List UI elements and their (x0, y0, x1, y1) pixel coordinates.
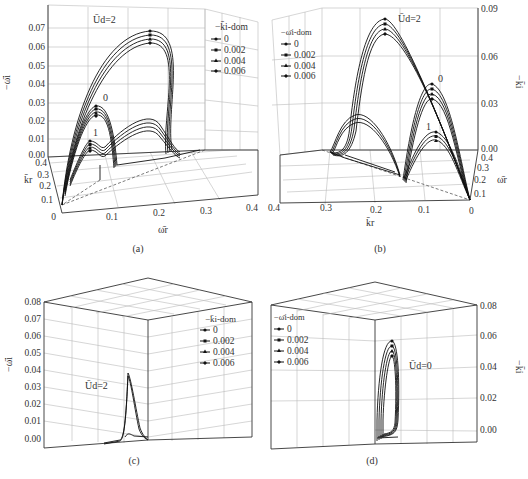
legend-item: 0.002 (224, 45, 246, 55)
wr-tick: 0.2 (153, 208, 165, 218)
ud-label: Ūd=2 (93, 14, 116, 25)
y-tick: 0.00 (480, 425, 497, 435)
legend-item: 0 (294, 39, 299, 49)
kr-tick: 0 (51, 212, 56, 222)
legend-item: 0 (213, 325, 218, 335)
legend-item: 0.004 (287, 346, 309, 356)
legend-item: 0.006 (224, 66, 246, 76)
y-tick: 0.02 (28, 116, 45, 126)
legend-title: −ω̄i-dom (281, 27, 312, 37)
y-tick: 0.03 (481, 99, 498, 109)
kr-axis-label: k̄r (24, 174, 33, 185)
legend-title: −k̄i-dom (215, 21, 248, 32)
panel-c-caption: (c) (128, 455, 139, 467)
kr-tick: 0.4 (35, 158, 47, 168)
y-tick: 0.02 (480, 393, 497, 403)
y-tick: 0.08 (24, 297, 41, 307)
legend-item: 0.002 (294, 50, 316, 60)
y-tick: 0.03 (24, 382, 41, 392)
legend-item: 0.006 (287, 357, 309, 367)
y-tick: 0.09 (481, 4, 498, 14)
y-axis-label: −ω̄i (3, 357, 14, 372)
panel-a: 0 1 Ūd=2 0.07 0.06 0.05 0.04 0.03 0.02 … (1, 5, 258, 235)
legend-item: 0.002 (213, 336, 235, 346)
wr-tick: 0.4 (246, 203, 258, 213)
mode-label-1: 1 (426, 121, 431, 132)
y-tick: 0.05 (24, 348, 41, 358)
y-axis-label: −k̄i (514, 360, 525, 374)
wr-tick: 0.3 (477, 163, 489, 173)
ud-label: Ūd=2 (85, 380, 108, 391)
kr-tick: 0.2 (370, 205, 382, 215)
y-tick: 0.06 (480, 331, 497, 341)
wr-tick: 0.1 (474, 189, 486, 199)
panel-c: Ūd=2 0.08 0.07 0.06 0.05 0.04 0.03 0.02… (3, 278, 252, 448)
mode-label-0: 0 (438, 73, 443, 84)
legend: −k̄i-dom 0 0.002 0.004 0.006 (211, 21, 248, 76)
legend: −k̄i-dom 0 0.002 0.004 0.006 (200, 314, 236, 368)
wr-tick: 0.4 (481, 153, 493, 163)
y-tick: 0.04 (28, 79, 45, 89)
kr-tick: 0.3 (320, 203, 332, 213)
legend-item: 0.006 (213, 358, 235, 368)
kr-tick: 0.4 (268, 203, 280, 213)
kr-axis-label: k̄r (366, 217, 375, 228)
mode-label-1: 1 (93, 127, 98, 138)
y-tick: 0.03 (28, 98, 45, 108)
ud-label: Ūd=2 (398, 13, 421, 24)
wr-tick: 0.2 (474, 175, 486, 185)
y-tick: 0.01 (24, 416, 41, 426)
y-tick: 0.00 (24, 434, 41, 444)
legend-item: 0.004 (224, 56, 246, 66)
legend-title: −k̄i-dom (205, 314, 236, 324)
legend-item: 0 (224, 34, 229, 44)
kr-tick: 0.1 (41, 195, 53, 205)
y-tick: 0.01 (28, 134, 45, 144)
legend-title: −ω̄i-dom (274, 312, 305, 322)
wr-tick: 0.3 (200, 206, 212, 216)
legend-item: 0.006 (294, 71, 316, 81)
legend-item: 0.004 (294, 61, 316, 71)
kr-tick: 0.2 (39, 181, 51, 191)
figure-canvas: 0 1 Ūd=2 0.07 0.06 0.05 0.04 0.03 0.02 … (0, 0, 528, 479)
legend-item: 0.002 (287, 335, 309, 345)
y-tick: 0.07 (24, 314, 41, 324)
panel-d-caption: (d) (366, 455, 378, 467)
kr-tick: 0.3 (37, 170, 49, 180)
legend: −ω̄i-dom 0 0.002 0.004 0.006 (281, 27, 316, 81)
panel-d: Ūd=0 0.08 0.06 0.04 0.02 0.00 −k̄i −ω̄i… (271, 282, 525, 449)
y-tick: 0.08 (480, 301, 497, 311)
y-axis-label: −ω̄i (1, 75, 12, 90)
kr-tick: 0.1 (418, 205, 430, 215)
y-tick: 0.06 (28, 42, 45, 52)
legend-item: 0 (287, 324, 292, 334)
panel-a-caption: (a) (132, 243, 143, 255)
y-tick: 0.04 (480, 362, 497, 372)
ud-label: Ūd=0 (409, 360, 432, 371)
y-tick: 0.04 (24, 365, 41, 375)
y-tick: 0.06 (481, 52, 498, 62)
y-tick: 0.06 (24, 331, 41, 341)
y-axis-label: −k̄i (514, 75, 525, 89)
panel-b: 0 1 Ūd=2 0.09 0.06 0.03 0.00 −k̄i 0.4 0… (268, 4, 525, 228)
y-tick: 0.07 (28, 23, 45, 33)
wr-tick: 0.1 (106, 212, 118, 222)
legend-item: 0.004 (213, 347, 235, 357)
y-tick: 0.05 (28, 61, 45, 71)
wr-tick: 0 (469, 206, 474, 216)
wr-axis-label: ω̄r (497, 174, 508, 185)
mode-label-0: 0 (103, 92, 108, 103)
panel-b-caption: (b) (374, 243, 386, 255)
y-tick: 0.02 (24, 399, 41, 409)
legend: −ω̄i-dom 0 0.002 0.004 0.006 (274, 312, 309, 367)
wr-axis-label: ω̄r (158, 224, 169, 235)
